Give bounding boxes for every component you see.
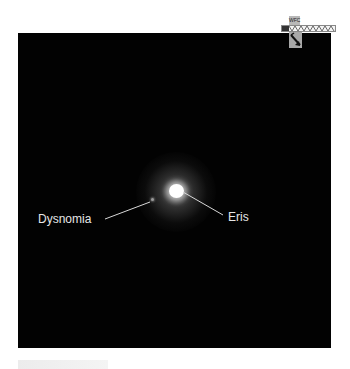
eris-label: Eris — [228, 211, 249, 223]
eris-pointer-line — [183, 192, 223, 215]
annotation-lines — [18, 33, 331, 348]
scale-bar — [281, 25, 336, 32]
compass-arrow-icon — [289, 32, 302, 48]
astronomy-image: Dysnomia Eris — [18, 33, 331, 348]
dysnomia-pointer-line — [105, 202, 150, 219]
compass-indicator: WFC — [281, 16, 336, 48]
compass-tag: WFC — [289, 16, 300, 25]
caption-cutoff — [18, 360, 108, 369]
dysnomia-label: Dysnomia — [38, 213, 91, 225]
